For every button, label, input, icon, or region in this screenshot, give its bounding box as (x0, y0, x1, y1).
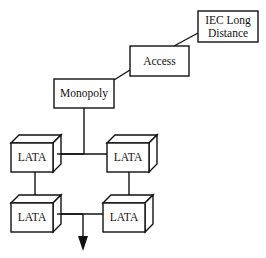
node-iec-long-distance: IEC Long Distance (198, 11, 258, 42)
lata-label: LATA (110, 211, 139, 223)
node-lata-bottom-left: LATA (11, 195, 61, 232)
iec-label-line2: Distance (208, 27, 248, 39)
monopoly-label: Monopoly (60, 87, 108, 100)
lata-label: LATA (18, 151, 47, 163)
lata-label: LATA (18, 211, 47, 223)
lata-label: LATA (114, 151, 143, 163)
node-lata-top-right: LATA (107, 135, 157, 172)
iec-label-line1: IEC Long (205, 14, 251, 27)
edge-access-monopoly (114, 70, 130, 80)
node-access: Access (130, 46, 189, 76)
access-label: Access (143, 55, 176, 67)
telecom-hierarchy-diagram: IEC Long Distance Access Monopoly LATA L… (0, 0, 266, 258)
node-lata-top-left: LATA (11, 135, 61, 172)
node-lata-bottom-right: LATA (103, 195, 153, 232)
edge-iec-access (174, 33, 198, 46)
node-monopoly: Monopoly (54, 79, 114, 108)
arrow-down-icon (78, 236, 88, 251)
